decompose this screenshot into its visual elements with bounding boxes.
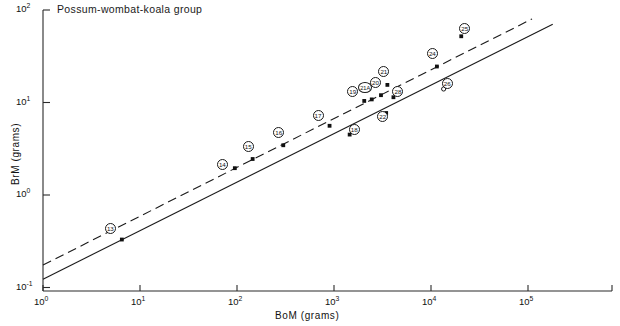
- data-point-marker: [328, 124, 332, 128]
- x-tick-label: 100: [34, 296, 48, 307]
- y-axis-title: BrM (grams): [10, 123, 21, 185]
- data-point-label: 16: [273, 127, 284, 138]
- x-tick-label: 103: [325, 296, 339, 307]
- data-point-label: 24: [427, 48, 438, 59]
- data-point-label: 15: [243, 141, 254, 152]
- y-tick-label: 102: [16, 3, 30, 14]
- axis-lines: [43, 10, 612, 291]
- data-point-marker: [362, 99, 366, 103]
- data-point-label: 20: [370, 77, 381, 88]
- x-tick-label: 105: [519, 296, 533, 307]
- data-point-marker: [120, 238, 124, 242]
- y-tick-label: 100: [16, 188, 30, 199]
- data-point-marker: [370, 98, 374, 102]
- data-point-marker: [459, 34, 463, 38]
- axis-ticks: [43, 10, 612, 291]
- data-point-marker: [379, 93, 383, 97]
- y-tick-label: 101: [16, 96, 30, 107]
- data-point-marker: [385, 83, 389, 87]
- data-point-label: 14: [217, 159, 228, 170]
- x-axis-title: BoM (grams): [275, 310, 339, 321]
- data-point-marker: [233, 166, 237, 170]
- x-tick-label: 104: [422, 296, 436, 307]
- data-point-marker: [281, 143, 285, 147]
- figure-log-log-scatter: Possum-wombat-koala group 13141516171819…: [0, 0, 620, 326]
- data-point-label: 18: [349, 124, 360, 135]
- regression-line: [43, 24, 553, 279]
- data-point-marker: [435, 65, 439, 69]
- data-point-label: 13: [105, 223, 116, 234]
- x-tick-label: 102: [228, 296, 242, 307]
- data-point-label: 17: [313, 110, 324, 121]
- data-point-marker: [251, 157, 255, 161]
- reference-line: [43, 19, 532, 265]
- y-tick-label: 10-1: [16, 281, 33, 292]
- x-tick-label: 101: [131, 296, 145, 307]
- data-point-label: 25: [459, 23, 470, 34]
- plot-canvas: [0, 0, 620, 326]
